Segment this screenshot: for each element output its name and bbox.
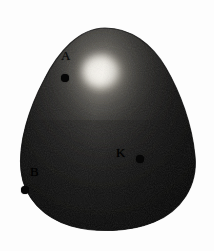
point-label-b: B bbox=[30, 165, 39, 178]
shaded-object-illustration bbox=[0, 0, 214, 251]
point-marker-a bbox=[61, 74, 69, 82]
figure-container: A B K bbox=[0, 0, 214, 251]
point-label-k: K bbox=[116, 146, 125, 159]
point-label-a: A bbox=[61, 49, 70, 62]
